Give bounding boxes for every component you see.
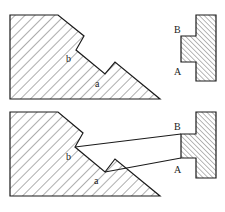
bottom-label-b: b bbox=[66, 151, 71, 162]
connector-b-to-B bbox=[75, 134, 181, 147]
bottom-label-B: B bbox=[174, 121, 181, 132]
bottom-right-block bbox=[181, 112, 216, 178]
bottom-left-block bbox=[10, 112, 160, 196]
top-left-block bbox=[10, 15, 160, 99]
top-label-A: A bbox=[174, 66, 182, 77]
top-label-b: b bbox=[66, 53, 71, 64]
top-label-B: B bbox=[174, 24, 181, 35]
bottom-label-a: a bbox=[94, 175, 99, 186]
bottom-label-A: A bbox=[174, 164, 182, 175]
diagram-canvas: b a B A b a B A bbox=[0, 0, 225, 212]
top-label-a: a bbox=[95, 78, 100, 89]
top-right-block bbox=[181, 15, 216, 81]
diagram-svg: b a B A b a B A bbox=[0, 0, 225, 212]
